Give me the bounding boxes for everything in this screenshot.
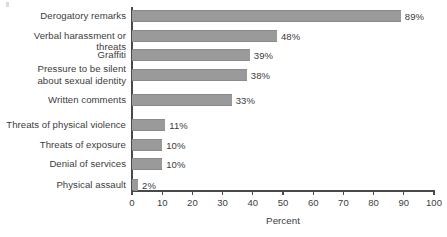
bar-value-label: 89% <box>405 11 424 22</box>
bar-row[interactable]: 11% <box>132 119 434 131</box>
x-tick-label: 100 <box>426 197 442 208</box>
x-tick-mark <box>192 190 193 195</box>
category-axis-labels: Derogatory remarksVerbal harassment or t… <box>0 8 126 190</box>
category-label: Pressure to be silent about sexual ident… <box>2 63 126 86</box>
x-tick-mark <box>252 190 253 195</box>
bar-value-label: 11% <box>169 120 188 131</box>
bar-row[interactable]: 48% <box>132 30 434 42</box>
artifact-speck <box>6 2 9 7</box>
bar[interactable] <box>132 139 162 151</box>
bar[interactable] <box>132 49 250 61</box>
x-tick-mark <box>313 190 314 195</box>
bar[interactable] <box>132 158 162 170</box>
bar-value-label: 48% <box>281 30 300 41</box>
category-label: Denial of services <box>2 158 126 170</box>
x-axis-title: Percent <box>132 215 434 226</box>
category-label: Written comments <box>2 94 126 106</box>
category-label: Threats of physical violence <box>2 119 126 131</box>
bar-row[interactable]: 10% <box>132 158 434 170</box>
x-tick-label: 40 <box>248 197 259 208</box>
bar-row[interactable]: 89% <box>132 10 434 22</box>
bar[interactable] <box>132 119 165 131</box>
bar-value-label: 33% <box>236 95 255 106</box>
x-tick-mark <box>282 190 283 195</box>
x-tick-label: 80 <box>368 197 379 208</box>
x-tick-mark <box>403 190 404 195</box>
bar[interactable] <box>132 94 232 106</box>
x-tick-mark <box>433 190 434 195</box>
x-tick-label: 50 <box>278 197 289 208</box>
x-tick-label: 90 <box>399 197 410 208</box>
x-tick-mark <box>222 190 223 195</box>
x-tick-label: 0 <box>129 197 134 208</box>
x-tick-label: 70 <box>338 197 349 208</box>
x-tick-mark <box>131 190 132 195</box>
bar-value-label: 10% <box>166 139 185 150</box>
bar-value-label: 10% <box>166 159 185 170</box>
x-tick-label: 20 <box>187 197 198 208</box>
x-tick-mark <box>162 190 163 195</box>
category-label: Graffiti <box>2 49 126 61</box>
category-label: Physical assault <box>2 179 126 191</box>
bar-value-label: 2% <box>142 180 156 191</box>
bar-value-label: 39% <box>254 50 273 61</box>
bar[interactable] <box>132 30 277 42</box>
x-tick-label: 30 <box>217 197 228 208</box>
x-tick-label: 60 <box>308 197 319 208</box>
category-label: Threats of exposure <box>2 139 126 151</box>
bar-row[interactable]: 33% <box>132 94 434 106</box>
bar[interactable] <box>132 10 401 22</box>
bar-row[interactable]: 10% <box>132 139 434 151</box>
bar[interactable] <box>132 179 138 191</box>
category-label: Derogatory remarks <box>2 10 126 22</box>
bar-row[interactable]: 38% <box>132 69 434 81</box>
bar[interactable] <box>132 69 247 81</box>
plot-area: 89%48%39%38%33%11%10%10%2% <box>132 8 434 190</box>
bar-value-label: 38% <box>251 69 270 80</box>
bar-row[interactable]: 39% <box>132 49 434 61</box>
x-tick-label: 10 <box>157 197 168 208</box>
x-tick-mark <box>343 190 344 195</box>
bar-chart: Derogatory remarksVerbal harassment or t… <box>0 0 447 237</box>
x-tick-mark <box>373 190 374 195</box>
